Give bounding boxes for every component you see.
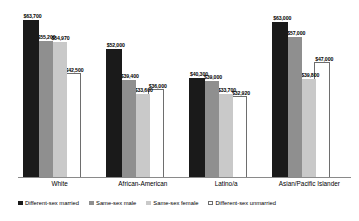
bar-value-label: $47,000 (315, 56, 333, 62)
bar: $54,970 (51, 42, 67, 177)
bar-value-label: $63,000 (273, 15, 291, 21)
bar-cluster: $63,700$55,200$54,970$42,500 (23, 20, 81, 177)
bar: $39,400 (120, 80, 136, 177)
legend-swatch-icon (89, 201, 94, 206)
bar-groups: $63,700$55,200$54,970$42,500$52,000$39,4… (18, 6, 351, 177)
category-axis: WhiteAfrican-AmericanLatino/aAsian/Pacif… (18, 180, 351, 187)
bar-value-label: $55,200 (37, 34, 55, 40)
bar-value-label: $52,000 (107, 42, 125, 48)
legend-item[interactable]: Different-sex unmarried (208, 200, 275, 206)
category-label: Latino/a (189, 180, 263, 187)
legend-swatch-icon (208, 201, 213, 206)
bar: $32,920 (231, 96, 247, 177)
bar-value-label: $63,700 (23, 13, 41, 19)
bar-group: $63,700$55,200$54,970$42,500 (23, 6, 97, 177)
bar: $57,000 (286, 37, 302, 177)
category-label: African-American (106, 180, 180, 187)
legend-item[interactable]: Same-sex female (146, 200, 198, 206)
bar: $39,800 (300, 79, 316, 177)
bar-value-label: $33,600 (135, 87, 153, 93)
bar-value-label: $42,500 (65, 67, 83, 73)
bar: $33,600 (134, 94, 150, 177)
bar-cluster: $52,000$39,400$33,600$36,000 (106, 49, 164, 177)
bar: $39,000 (203, 81, 219, 177)
legend-swatch-icon (18, 201, 23, 206)
bar: $36,000 (148, 89, 164, 177)
legend-item[interactable]: Different-sex married (18, 200, 79, 206)
bar: $55,200 (37, 41, 53, 177)
bar-cluster: $40,300$39,000$33,700$32,920 (189, 78, 247, 177)
bar-value-label: $57,000 (287, 30, 305, 36)
legend-label: Same-sex female (153, 200, 198, 206)
category-label: Asian/Pacific Islander (272, 180, 346, 187)
bar: $42,500 (65, 73, 81, 177)
bar: $40,300 (189, 78, 205, 177)
axis-baseline (18, 177, 351, 178)
bar-group: $52,000$39,400$33,600$36,000 (106, 6, 180, 177)
bar-group: $40,300$39,000$33,700$32,920 (189, 6, 263, 177)
bar-value-label: $39,400 (121, 73, 139, 79)
bar-cluster: $63,000$57,000$39,800$47,000 (272, 22, 330, 177)
bar-value-label: $33,700 (218, 87, 236, 93)
legend-label: Different-sex unmarried (215, 200, 275, 206)
bar-chart: $63,700$55,200$54,970$42,500$52,000$39,4… (0, 0, 359, 221)
bar: $47,000 (314, 62, 330, 177)
bar: $52,000 (106, 49, 122, 177)
bar-group: $63,000$57,000$39,800$47,000 (272, 6, 346, 177)
bar-value-label: $40,300 (190, 71, 208, 77)
legend-item[interactable]: Same-sex male (89, 200, 136, 206)
bar-value-label: $39,800 (301, 72, 319, 78)
bar: $63,700 (23, 20, 39, 177)
chart-legend: Different-sex marriedSame-sex maleSame-s… (18, 200, 351, 206)
category-label: White (23, 180, 97, 187)
bar: $33,700 (217, 94, 233, 177)
legend-swatch-icon (146, 201, 151, 206)
bar: $63,000 (272, 22, 288, 177)
legend-label: Same-sex male (96, 200, 136, 206)
plot-area: $63,700$55,200$54,970$42,500$52,000$39,4… (18, 6, 351, 178)
legend-label: Different-sex married (25, 200, 79, 206)
